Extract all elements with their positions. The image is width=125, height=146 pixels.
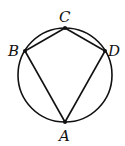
label-b: B	[7, 42, 19, 60]
point-d	[103, 49, 107, 53]
circle	[18, 28, 112, 122]
segment-cd	[65, 28, 105, 51]
segment-da	[65, 51, 105, 122]
label-c: C	[59, 8, 71, 26]
segment-bc	[25, 28, 65, 51]
point-b	[23, 49, 27, 53]
label-d: D	[107, 42, 120, 60]
point-c	[63, 26, 67, 30]
point-a	[63, 120, 67, 124]
circle-diagram: A B C D	[0, 0, 125, 146]
label-a: A	[57, 127, 70, 145]
segment-ab	[25, 51, 65, 122]
